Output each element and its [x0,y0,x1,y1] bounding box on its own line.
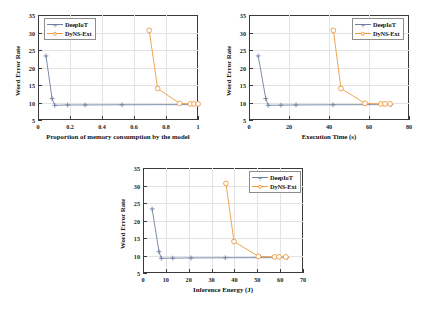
data-point-deepiot [189,256,194,261]
data-point-dyns [277,255,282,260]
data-point-deepiot [263,96,268,101]
plot-area-execution: 5101520253035020406080 Execution Time (s… [211,0,423,155]
legend-item-dyns: DyNS-Ext [355,30,400,38]
legend-memory: + DeepIoT DyNS-Ext [44,18,96,40]
data-point-deepiot [52,103,57,108]
data-point-deepiot [83,103,88,108]
legend-key-dyns-icon [355,30,371,37]
data-point-dyns [155,86,160,91]
data-point-deepiot [159,256,164,261]
chart-panel-execution: 5101520253035020406080 Execution Time (s… [211,0,423,155]
series-layer-memory [0,0,211,155]
data-point-deepiot [120,102,125,107]
x-axis-title-execution: Execution Time (s) [302,133,357,140]
legend-energy: + DeepIoT DyNS-Ext [249,171,301,193]
data-point-deepiot [157,249,162,254]
data-point-deepiot [50,96,55,101]
data-point-dyns [339,86,344,91]
plot-area-memory: 510152025303500.20.40.60.81 Proportion o… [0,0,211,155]
legend-label-deepiot: DeepIoT [270,174,293,181]
data-point-deepiot [170,256,175,261]
data-point-dyns [177,101,182,106]
legend-key-dyns-icon [47,30,63,37]
y-axis-title-execution: Word Error Rate [225,46,232,96]
chart-panel-energy: 5101520253035010203040506070 Inference E… [105,155,320,309]
series-line-dyns [149,30,198,104]
legend-label-dyns: DyNS-Ext [270,183,297,190]
legend-label-dyns: DyNS-Ext [65,30,92,37]
data-point-deepiot [294,103,299,108]
x-axis-title-memory: Proportion of memory consumption by the … [46,133,189,140]
legend-item-deepiot: + DeepIoT [47,21,92,29]
y-axis-title-memory: Word Error Rate [14,46,21,96]
data-point-dyns [232,239,237,244]
data-point-dyns [283,255,288,260]
data-point-dyns [196,102,201,107]
series-line-dyns [226,183,286,257]
plot-area-energy: 5101520253035010203040506070 Inference E… [105,155,320,309]
legend-key-deepiot-icon: + [47,21,63,28]
y-axis-title-energy: Word Error Rate [119,199,126,249]
series-line-deepiot [46,56,198,105]
data-point-deepiot [256,54,261,59]
data-point-deepiot [331,102,336,107]
legend-item-deepiot: + DeepIoT [252,174,297,182]
legend-item-dyns: DyNS-Ext [47,30,92,38]
legend-item-dyns: DyNS-Ext [252,183,297,191]
data-point-deepiot [150,207,155,212]
legend-label-deepiot: DeepIoT [65,21,88,28]
data-point-deepiot [266,103,271,108]
legend-key-deepiot-icon: + [355,21,371,28]
data-point-dyns [147,28,152,33]
data-point-deepiot [65,103,70,108]
data-point-dyns [272,255,277,260]
series-line-deepiot [258,56,391,105]
legend-key-deepiot-icon: + [252,174,268,181]
legend-key-dyns-icon [252,183,268,190]
series-line-deepiot [152,209,287,258]
data-point-dyns [383,102,388,107]
series-line-dyns [333,30,390,104]
x-axis-title-energy: Inference Energy (J) [193,286,253,293]
legend-execution: + DeepIoT DyNS-Ext [352,18,404,40]
data-point-deepiot [44,54,49,59]
data-point-dyns [256,254,261,259]
data-point-deepiot [223,255,228,260]
legend-label-dyns: DyNS-Ext [373,30,400,37]
data-point-dyns [331,28,336,33]
data-point-dyns [388,102,393,107]
legend-label-deepiot: DeepIoT [373,21,396,28]
data-point-dyns [224,181,229,186]
data-point-deepiot [279,103,284,108]
legend-item-deepiot: + DeepIoT [355,21,400,29]
chart-panel-memory: 510152025303500.20.40.60.81 Proportion o… [0,0,211,155]
data-point-dyns [363,101,368,106]
